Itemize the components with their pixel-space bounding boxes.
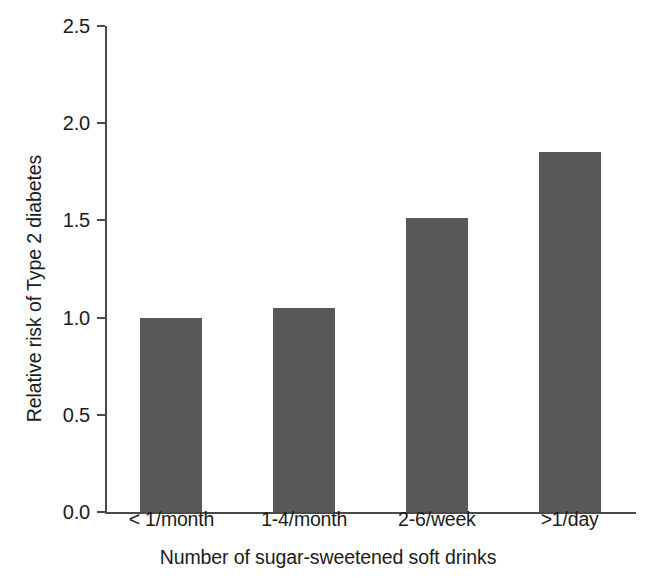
plot-area: 0.00.51.01.52.02.5 bbox=[105, 26, 636, 512]
y-axis-tick: 2.0 bbox=[97, 122, 105, 124]
y-axis-title: Relative risk of Type 2 diabetes bbox=[14, 0, 54, 577]
y-axis-line bbox=[105, 26, 107, 512]
x-axis-tick-label: 2-6/week bbox=[398, 508, 476, 531]
y-axis-tick-label: 2.0 bbox=[63, 112, 90, 135]
y-axis-tick-label: 0.5 bbox=[63, 403, 90, 426]
x-axis-tick-label: < 1/month bbox=[129, 508, 214, 531]
y-axis-tick: 1.5 bbox=[97, 219, 105, 221]
x-axis-tick-label: >1/day bbox=[541, 508, 599, 531]
bar bbox=[273, 308, 335, 512]
y-axis-tick-label: 1.0 bbox=[63, 306, 90, 329]
bar bbox=[539, 152, 601, 512]
x-axis-tick-label: 1-4/month bbox=[261, 508, 347, 531]
bar bbox=[406, 218, 468, 512]
x-axis-title: Number of sugar-sweetened soft drinks bbox=[0, 546, 656, 569]
y-axis-tick: 1.0 bbox=[97, 317, 105, 319]
y-axis-tick-label: 1.5 bbox=[63, 209, 90, 232]
y-axis-tick: 0.5 bbox=[97, 414, 105, 416]
bar-chart: Relative risk of Type 2 diabetes 0.00.51… bbox=[0, 0, 656, 577]
y-axis-tick: 2.5 bbox=[97, 25, 105, 27]
y-axis-tick-label: 0.0 bbox=[63, 501, 90, 524]
bar bbox=[140, 318, 202, 512]
y-axis-tick: 0.0 bbox=[97, 511, 105, 513]
y-axis-tick-label: 2.5 bbox=[63, 15, 90, 38]
